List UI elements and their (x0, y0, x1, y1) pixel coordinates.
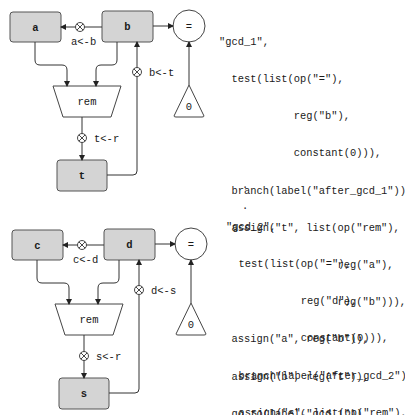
button-d-from-s[interactable]: d<-s (135, 285, 177, 297)
gcd-1-datapath: a b = 0 rem t (10, 10, 205, 191)
register-s: s (59, 378, 109, 409)
register-c-label: c (34, 240, 40, 252)
code-line: reg("b"), (219, 110, 405, 122)
rem-2-label: rem (80, 314, 99, 326)
button-d-from-s-label: d<-s (151, 285, 176, 297)
gcd-2-datapath: c d = 0 rem s c<-d (12, 228, 207, 409)
code-line: assign("s", list(op("rem"), (226, 407, 405, 415)
register-c: c (12, 230, 63, 260)
code-line: reg("d"), (226, 295, 405, 307)
test-equals-label: = (186, 21, 192, 33)
button-c-from-d-label: c<-d (73, 254, 98, 266)
button-t-from-r[interactable]: t<-r (78, 133, 120, 145)
register-b: b (102, 11, 153, 42)
code-line: test(list(op("="), (219, 73, 405, 85)
ellipsis-dot: . (242, 182, 254, 189)
rem-operation-2: rem (55, 304, 123, 335)
code-line: constant(0))), (219, 147, 405, 159)
constant-zero-2: 0 (176, 303, 206, 335)
code-line: "gcd_2", (226, 221, 405, 233)
code-line: branch(label("after_gcd_2")), (226, 370, 405, 382)
test-equals: = (173, 10, 205, 42)
register-s-label: s (81, 388, 87, 400)
button-a-from-b[interactable]: a<-b (71, 23, 96, 49)
constant-zero-label: 0 (186, 101, 192, 113)
button-c-from-d[interactable]: c<-d (73, 241, 98, 267)
code-line: constant(0))), (226, 332, 405, 344)
register-b-label: b (124, 21, 130, 33)
constant-zero-2-label: 0 (188, 319, 194, 331)
register-t-label: t (79, 170, 85, 182)
button-s-from-r-label: s<-r (96, 351, 121, 363)
button-t-from-r-label: t<-r (94, 133, 119, 145)
register-d-label: d (126, 239, 132, 251)
register-a: a (10, 12, 61, 42)
register-t: t (57, 160, 107, 191)
rem-label: rem (78, 96, 97, 108)
test-equals-2: = (175, 228, 207, 260)
register-a-label: a (32, 22, 39, 34)
button-a-from-b-label: a<-b (71, 36, 96, 48)
register-d: d (104, 229, 155, 260)
button-b-from-t[interactable]: b<-t (133, 67, 175, 79)
constant-zero: 0 (174, 85, 204, 117)
code-line: test(list(op("="), (226, 258, 405, 270)
rem-operation: rem (53, 86, 121, 117)
button-s-from-r[interactable]: s<-r (80, 351, 122, 363)
controller-code-gcd-2: "gcd_2", test(list(op("="), reg("d"), co… (226, 196, 405, 415)
test-equals-2-label: = (188, 239, 194, 251)
code-line: "gcd_1", (219, 36, 405, 48)
button-b-from-t-label: b<-t (149, 67, 174, 79)
